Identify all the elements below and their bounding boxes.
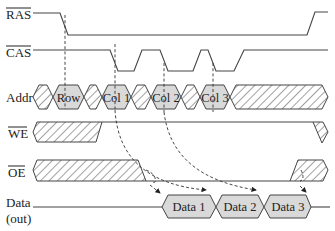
addr-invalid-2 xyxy=(131,85,151,109)
data-1-text: Data 1 xyxy=(173,200,206,214)
addr-invalid-4 xyxy=(230,85,328,109)
we-waveform xyxy=(33,122,328,143)
data-2-text: Data 2 xyxy=(224,200,257,214)
addr-invalid-3 xyxy=(181,85,200,109)
addr-label: Addr xyxy=(6,90,33,105)
addr-col2-text: Col 2 xyxy=(152,91,179,105)
data-label: Data xyxy=(6,195,31,210)
oe-invalid-end xyxy=(290,160,328,181)
oe-label: OE xyxy=(8,165,25,180)
timing-diagram: RAS CAS Addr WE OE Data (out) Row Col 1 … xyxy=(0,0,335,231)
addr-row-text: Row xyxy=(57,91,81,105)
data-3-text: Data 3 xyxy=(272,200,305,214)
ras-waveform xyxy=(33,12,328,35)
cas-waveform xyxy=(33,50,328,71)
oe-invalid-start xyxy=(33,160,146,181)
addr-col3-text: Col 3 xyxy=(201,91,228,105)
we-invalid-end xyxy=(313,122,328,143)
addr-invalid-0 xyxy=(33,85,53,109)
addr-bus: Row Col 1 Col 2 Col 3 xyxy=(33,85,328,109)
we-invalid-start xyxy=(33,122,102,142)
signal-labels: RAS CAS Addr WE OE Data (out) xyxy=(6,7,33,226)
addr-invalid-1 xyxy=(84,85,102,109)
we-label: WE xyxy=(8,126,28,141)
addr-col1-text: Col 1 xyxy=(103,91,130,105)
data-bus: Data 1 Data 2 Data 3 xyxy=(33,195,330,218)
cas-label: CAS xyxy=(6,45,31,60)
ras-label: RAS xyxy=(6,7,31,22)
data-sublabel: (out) xyxy=(6,211,31,226)
col2-to-data2-arrow xyxy=(164,112,256,190)
oe-waveform xyxy=(33,160,328,181)
